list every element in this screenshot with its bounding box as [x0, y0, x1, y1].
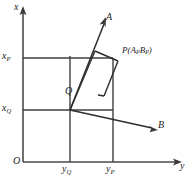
shape-edge-p-down — [104, 61, 118, 96]
ray-b-arrow-icon — [149, 126, 159, 133]
axis-group — [20, 6, 182, 165]
shape-edge-q-top — [70, 51, 95, 110]
shape-edge-top-p — [95, 51, 118, 61]
tick-label-x-lower-sub: Q — [6, 107, 11, 114]
tick-label-y-left-sub: Q — [66, 168, 71, 175]
tick-label-y-left: yQ — [62, 164, 71, 175]
tick-label-x-upper: xP — [2, 51, 10, 62]
ray-b-line — [70, 110, 152, 128]
guide-line-group — [23, 56, 113, 162]
point-label-p: P(APBP) — [122, 46, 152, 56]
tick-label-y-right: yP — [106, 164, 114, 175]
tick-label-y-right-sub: P — [110, 168, 114, 175]
ray-label-b: B — [158, 120, 164, 130]
ray-label-a: A — [106, 12, 112, 22]
axis-label-y: y — [180, 161, 184, 171]
ray-group — [70, 17, 158, 132]
axis-label-x: x — [14, 2, 18, 12]
diagram-figure: x y O xP xQ yQ yP A B Q P(APBP) — [0, 0, 189, 182]
shape-edge-down-b — [98, 95, 104, 96]
point-label-q: Q — [65, 86, 72, 96]
diagram-canvas — [0, 0, 189, 182]
point-label-p-close-paren: ) — [149, 45, 152, 55]
tick-label-x-lower: xQ — [2, 103, 11, 114]
origin-label: O — [13, 156, 20, 166]
construction-shape-group — [70, 51, 118, 110]
tick-label-x-upper-sub: P — [6, 55, 10, 62]
